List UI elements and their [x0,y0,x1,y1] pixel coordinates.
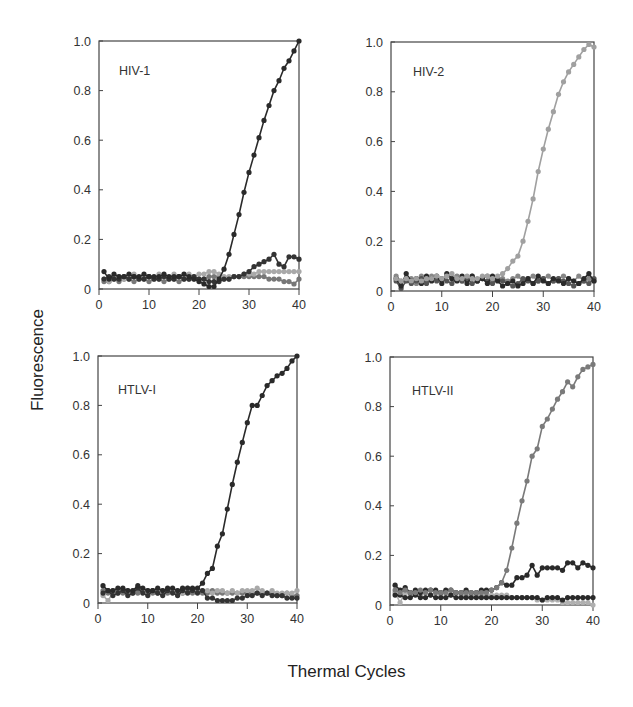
data-point [191,277,196,282]
data-point [205,588,210,593]
data-point [500,283,505,288]
data-point [535,446,540,451]
data-point [404,276,409,281]
data-point [590,602,595,607]
data-point [100,583,105,588]
data-point [145,593,150,598]
data-point [161,279,166,284]
data-point [495,274,500,279]
data-point [531,274,536,279]
data-point [580,367,585,372]
data-point [540,565,545,570]
data-point [535,573,540,578]
data-point [393,588,398,593]
x-tick-label: 20 [192,298,206,312]
data-point [556,92,561,97]
data-point [195,591,200,596]
y-tick-label: 1.0 [73,350,90,364]
data-point [250,403,255,408]
data-point [230,588,235,593]
data-point [489,595,494,600]
data-point [196,279,201,284]
data-point [480,274,485,279]
panel-title: HTLV-I [118,383,156,397]
y-tick-label: 0.8 [366,85,383,99]
data-point [146,274,151,279]
x-tick-label: 10 [435,300,449,314]
data-point [111,272,116,277]
data-point [211,274,216,279]
data-point [151,274,156,279]
data-point [245,588,250,593]
data-point [550,407,555,412]
panel-title: HIV-2 [413,65,444,79]
data-point [195,586,200,591]
y-tick-label: 0.4 [73,498,90,512]
data-point [170,591,175,596]
data-point [556,278,561,283]
data-point [566,281,571,286]
data-point [126,272,131,277]
data-point [271,88,276,93]
data-point [540,597,545,602]
y-tick-label: 0 [375,599,382,613]
data-point [438,590,443,595]
data-point [116,274,121,279]
data-point [459,590,464,595]
data-point [135,583,140,588]
data-point [546,274,551,279]
data-point [504,568,509,573]
data-point [575,374,580,379]
y-tick-label: 0.6 [366,135,383,149]
data-point [246,269,251,274]
data-point [266,103,271,108]
data-point [449,281,454,286]
data-point [286,269,291,274]
data-point [211,284,216,289]
data-point [575,565,580,570]
data-point [494,595,499,600]
data-point [515,274,520,279]
data-point [439,281,444,286]
x-tick-label: 40 [292,298,306,312]
data-point [101,269,106,274]
data-point [115,586,120,591]
data-point [464,590,469,595]
data-point [221,277,226,282]
data-point [205,596,210,601]
data-point [231,274,236,279]
data-point [530,563,535,568]
data-point [175,593,180,598]
data-point [196,272,201,277]
data-point [423,590,428,595]
data-point [250,593,255,598]
data-point [504,583,509,588]
data-point [215,588,220,593]
data-point [291,281,296,286]
data-point [454,276,459,281]
data-point [261,274,266,279]
data-point [200,581,205,586]
y-tick-label: 0.4 [365,499,382,513]
x-tick-label: 40 [586,614,600,628]
data-point [443,590,448,595]
data-point [566,276,571,281]
data-point [276,78,281,83]
data-point [240,588,245,593]
data-point [235,591,240,596]
data-point [449,276,454,281]
data-point [140,586,145,591]
data-point [519,575,524,580]
x-tick-label: 40 [290,612,304,626]
y-tick-label: 1.0 [74,35,91,49]
data-point [286,58,291,63]
data-point [220,598,225,603]
figure-canvas: 00.20.40.60.81.0010203040HIV-100.20.40.6… [0,0,633,707]
data-point [140,591,145,596]
data-point [550,595,555,600]
data-point [289,596,294,601]
x-tick-label: 30 [536,300,550,314]
data-point [141,272,146,277]
data-point [561,281,566,286]
data-point [398,590,403,595]
